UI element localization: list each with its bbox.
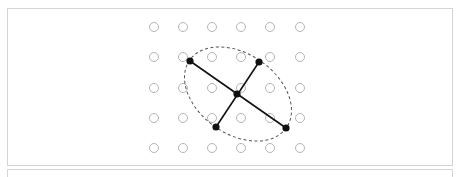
grid-dot [237, 114, 246, 123]
grid-dot [237, 144, 246, 153]
grid-dot [208, 114, 217, 123]
grid-dot [179, 53, 188, 62]
grid-dot [150, 114, 159, 123]
grid-dot [208, 53, 217, 62]
grid-dot [237, 23, 246, 32]
grid-dot [296, 53, 305, 62]
grid-dot [150, 23, 159, 32]
grid-dot [266, 53, 275, 62]
grid-dot [179, 114, 188, 123]
axis-point [255, 58, 262, 65]
grid-dot [150, 53, 159, 62]
grid-dot [179, 23, 188, 32]
grid-dot [208, 84, 217, 93]
grid-dot [208, 144, 217, 153]
grid-dot [266, 23, 275, 32]
axis-point [186, 57, 193, 64]
grid-dot [150, 84, 159, 93]
grid-dot [150, 144, 159, 153]
axis-point [233, 90, 240, 97]
ellipse-diagram [0, 0, 459, 177]
grid-dot [237, 53, 246, 62]
grid-dot [266, 84, 275, 93]
grid-dot [296, 114, 305, 123]
grid-dot [296, 84, 305, 93]
grid-dot [208, 23, 217, 32]
axis-point [282, 124, 289, 131]
grid-dot [266, 144, 275, 153]
grid-dot [296, 23, 305, 32]
grid-dot [296, 144, 305, 153]
axis-point [212, 123, 219, 130]
grid-dot [179, 144, 188, 153]
